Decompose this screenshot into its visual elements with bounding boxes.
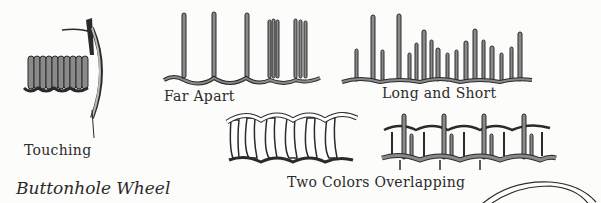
two-colors-white-stitch-illustration (225, 108, 375, 168)
caption-long-and-short: Long and Short (382, 85, 496, 101)
caption-touching: Touching (24, 142, 91, 158)
caption-two-colors-overlapping: Two Colors Overlapping (287, 174, 465, 190)
touching-stitch-illustration (0, 0, 130, 150)
two-colors-gray-stitch-illustration (380, 108, 560, 173)
buttonhole-wheel-illustration (480, 180, 601, 203)
far-apart-stitch-illustration (160, 8, 330, 98)
caption-far-apart: Far Apart (164, 88, 235, 104)
section-title: Buttonhole Wheel (16, 178, 170, 198)
long-and-short-stitch-illustration (340, 10, 520, 90)
